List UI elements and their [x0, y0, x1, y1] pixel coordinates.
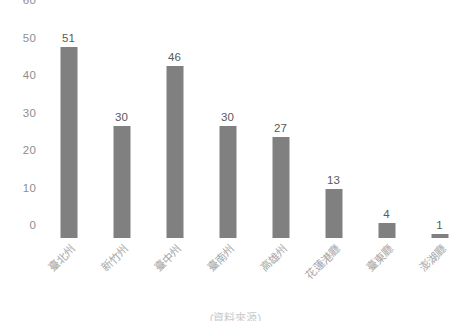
x-axis-category-labels: 臺北州新竹州臺中州臺南州高雄州花蓮港廳臺東廳澎湖廳 [42, 240, 466, 302]
bar-value-label: 51 [62, 32, 75, 44]
bar-group: 4 [360, 13, 413, 238]
bar [378, 223, 395, 238]
x-axis-tick: 新竹州 [95, 240, 148, 302]
footer-caption: (資料來源) [0, 309, 471, 321]
bar-chart: 0102030405060 51304630271341 臺北州新竹州臺中州臺南… [0, 0, 471, 321]
x-axis-tick: 臺東廳 [360, 240, 413, 302]
x-axis-tick: 澎湖廳 [413, 240, 466, 302]
bar [113, 126, 130, 239]
bar-value-label: 30 [115, 111, 128, 123]
x-axis-tick: 臺北州 [42, 240, 95, 302]
x-axis-tick-label: 臺中州 [151, 242, 183, 274]
x-axis-tick: 臺中州 [148, 240, 201, 302]
bar [60, 47, 77, 238]
bar-group: 30 [201, 13, 254, 238]
bar [272, 137, 289, 238]
x-axis-tick-label: 花蓮港廳 [302, 242, 342, 282]
x-axis-tick: 高雄州 [254, 240, 307, 302]
bar-group: 51 [42, 13, 95, 238]
x-axis-tick: 臺南州 [201, 240, 254, 302]
y-axis: 0102030405060 [0, 0, 42, 252]
bar-value-label: 13 [327, 174, 340, 186]
bar [431, 234, 448, 238]
bar-value-label: 30 [221, 111, 234, 123]
x-axis-tick: 花蓮港廳 [307, 240, 360, 302]
bar-group: 27 [254, 13, 307, 238]
bar [325, 189, 342, 238]
bar-group: 13 [307, 13, 360, 238]
y-axis-tick-label: 60 [23, 0, 36, 6]
bar-value-label: 1 [436, 219, 442, 231]
y-axis-tick-label: 40 [23, 69, 36, 81]
y-axis-tick-label: 50 [23, 32, 36, 44]
bar-value-label: 27 [274, 122, 287, 134]
bar-group: 1 [413, 13, 466, 238]
bar-group: 46 [148, 13, 201, 238]
bar-value-label: 46 [168, 51, 181, 63]
bar-group: 30 [95, 13, 148, 238]
bar [219, 126, 236, 239]
x-axis-tick-label: 新竹州 [98, 242, 130, 274]
bars-layer: 51304630271341 [42, 13, 466, 238]
y-axis-tick-label: 10 [23, 182, 36, 194]
bar [166, 66, 183, 239]
x-axis-tick-label: 高雄州 [257, 242, 289, 274]
x-axis-tick-label: 臺南州 [204, 242, 236, 274]
bar-value-label: 4 [383, 208, 389, 220]
y-axis-tick-label: 30 [23, 107, 36, 119]
y-axis-tick-label: 0 [29, 219, 36, 231]
y-axis-tick-label: 20 [23, 144, 36, 156]
x-axis-tick-label: 臺北州 [45, 242, 77, 274]
plot-area: 51304630271341 [42, 13, 466, 238]
x-axis-tick-label: 澎湖廳 [416, 242, 448, 274]
x-axis-tick-label: 臺東廳 [363, 242, 395, 274]
